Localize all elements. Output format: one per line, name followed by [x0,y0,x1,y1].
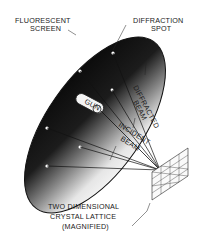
label-screen: SCREEN [30,24,61,33]
crystal-lattice [152,148,188,200]
label-spot: SPOT [151,24,172,33]
label-crystal-lattice: CRYSTAL LATTICE [50,212,116,221]
label-magnified: (MAGNIFIED) [62,222,109,231]
label-two-dimensional: TWO DIMENSIONAL [48,202,119,211]
leed-diagram: FLUORESCENT SCREEN DIFFRACTION SPOT DIFF… [0,0,205,242]
